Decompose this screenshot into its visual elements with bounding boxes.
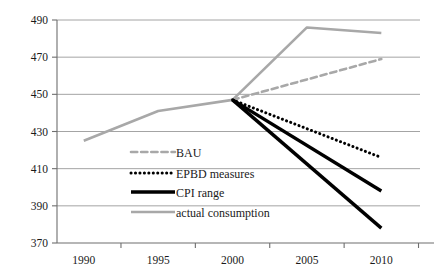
y-tick-label: 390 [31, 200, 49, 212]
y-tick-group [52, 20, 57, 243]
series-line-cpi-range [233, 100, 382, 191]
x-tick-label: 1990 [72, 254, 95, 266]
y-tick-label-group: 370390410430450470490 [31, 14, 49, 249]
series-line-actual-consumption [84, 27, 382, 140]
x-tick-group [121, 243, 419, 248]
y-tick-label: 430 [31, 126, 49, 138]
chart-legend: BAUEPBD measuresCPI rangeactual consumpt… [131, 146, 270, 220]
line-chart: 370390410430450470490 199019952000200520… [0, 0, 438, 279]
x-tick-label-group: 19901995200020052010 [72, 254, 393, 266]
y-tick-label: 490 [31, 14, 49, 26]
legend-label: BAU [176, 146, 202, 160]
x-tick-label: 1995 [147, 254, 170, 266]
x-tick-label: 2000 [221, 254, 244, 266]
legend-label: EPBD measures [176, 167, 255, 181]
legend-label: actual consumption [176, 206, 270, 220]
chart-container: 370390410430450470490 199019952000200520… [0, 0, 438, 279]
y-tick-label: 470 [31, 51, 49, 63]
y-tick-label: 370 [31, 237, 49, 249]
x-tick-label: 2010 [370, 254, 393, 266]
x-tick-label: 2005 [295, 254, 318, 266]
legend-label: CPI range [176, 186, 224, 200]
y-tick-label: 450 [31, 88, 49, 100]
series-line-epbd-measures [233, 100, 382, 158]
y-tick-label: 410 [31, 163, 49, 175]
